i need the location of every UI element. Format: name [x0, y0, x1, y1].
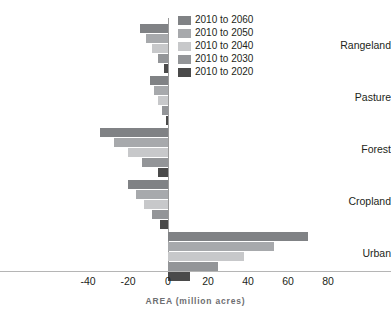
bar-row: [0, 138, 391, 147]
bar: [168, 252, 244, 261]
bar-row: [0, 128, 391, 137]
x-tick-label: 40: [228, 275, 268, 288]
bar: [168, 242, 274, 251]
legend-swatch-icon: [178, 55, 191, 64]
bar-row: [0, 148, 391, 157]
bar: [152, 210, 168, 219]
legend-item: 2010 to 2050: [178, 27, 253, 39]
bar: [154, 86, 168, 95]
x-tick-label: -40: [68, 275, 108, 288]
bar: [158, 168, 168, 177]
bar: [136, 190, 168, 199]
bar: [160, 220, 168, 229]
bar-row: [0, 190, 391, 199]
bar: [166, 116, 168, 125]
bar-row: [0, 96, 391, 105]
bar-row: [0, 242, 391, 251]
bar: [142, 158, 168, 167]
legend-label: 2010 to 2060: [195, 15, 253, 25]
bar: [128, 148, 168, 157]
x-tick-label: 80: [308, 275, 348, 288]
bar: [128, 180, 168, 189]
legend-swatch-icon: [178, 29, 191, 38]
x-tick-label: 20: [188, 275, 228, 288]
x-tick-label: 0: [148, 275, 188, 288]
legend-item: 2010 to 2060: [178, 14, 253, 26]
bar-row: [0, 232, 391, 241]
bar-row: [0, 210, 391, 219]
bar-row: [0, 86, 391, 95]
x-axis-line: [0, 271, 391, 272]
legend-item: 2010 to 2020: [178, 66, 253, 78]
bar-row: [0, 262, 391, 271]
bar-row: [0, 116, 391, 125]
bar-row: [0, 200, 391, 209]
legend-label: 2010 to 2040: [195, 41, 253, 51]
legend-swatch-icon: [178, 16, 191, 25]
bar: [152, 44, 168, 53]
legend-item: 2010 to 2030: [178, 53, 253, 65]
x-tick-label: -20: [108, 275, 148, 288]
bar: [144, 200, 168, 209]
bar-row: [0, 106, 391, 115]
bar: [168, 262, 218, 271]
legend-label: 2010 to 2050: [195, 28, 253, 38]
bar-row: [0, 220, 391, 229]
bar: [140, 24, 168, 33]
bar-row: [0, 158, 391, 167]
bar-row: [0, 252, 391, 261]
bar: [158, 54, 168, 63]
bar: [146, 34, 168, 43]
bar-row: [0, 168, 391, 177]
x-axis-title: AREA (million acres): [0, 296, 391, 306]
legend-label: 2010 to 2030: [195, 54, 253, 64]
bar-chart: RangelandPastureForestCroplandUrban -40-…: [0, 0, 391, 328]
x-tick-label: 60: [268, 275, 308, 288]
bar-group: Cropland: [0, 180, 391, 230]
bar-group: Pasture: [0, 76, 391, 126]
legend-swatch-icon: [178, 68, 191, 77]
bar: [168, 232, 308, 241]
bar: [158, 96, 168, 105]
bar: [114, 138, 168, 147]
bar: [100, 128, 168, 137]
bar-group: Forest: [0, 128, 391, 178]
legend-swatch-icon: [178, 42, 191, 51]
legend-label: 2010 to 2020: [195, 67, 253, 77]
chart-legend: 2010 to 20602010 to 20502010 to 20402010…: [178, 14, 253, 79]
bar: [162, 106, 168, 115]
bar-row: [0, 180, 391, 189]
bar: [164, 64, 168, 73]
bar: [150, 76, 168, 85]
legend-item: 2010 to 2040: [178, 40, 253, 52]
